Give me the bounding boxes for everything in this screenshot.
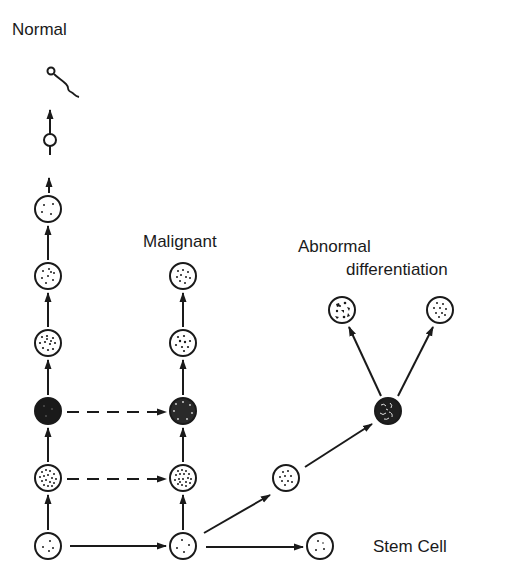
cell-a3: [427, 297, 453, 323]
arrow-a0-a1: [305, 424, 372, 467]
cell-n2: [35, 196, 61, 222]
cell-a2: [329, 297, 355, 323]
cell-a0: [273, 465, 299, 491]
cell-m3: [170, 398, 196, 424]
cell-a1: [375, 398, 401, 424]
arrow-m5-a0: [204, 495, 270, 533]
cell-m5: [170, 533, 196, 559]
cell-n5: [35, 398, 61, 424]
sperm-cell-icon: [48, 68, 80, 98]
cell-n6: [35, 465, 61, 491]
cell-s1: [307, 533, 333, 559]
cell-n3: [35, 263, 61, 289]
cell-m2: [170, 330, 196, 356]
cell-n4: [35, 330, 61, 356]
arrow-a1-a3: [398, 327, 433, 396]
cell-n7: [35, 533, 61, 559]
lineage-diagram: [0, 0, 517, 582]
cell-m4: [170, 465, 196, 491]
cell-n1: [44, 134, 56, 146]
cell-m1: [170, 263, 196, 289]
edges: [48, 110, 433, 547]
arrow-a1-a2: [349, 327, 381, 396]
